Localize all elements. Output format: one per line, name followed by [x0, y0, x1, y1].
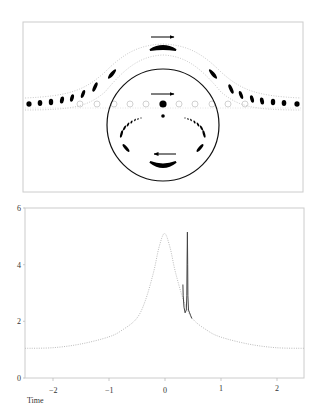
particle [187, 118, 189, 120]
figure-canvas: 0 2 4 6 −2 −1 0 1 2 Time [0, 0, 326, 420]
streamline-band [25, 44, 301, 110]
center-particle-large [159, 100, 166, 107]
y-tick-label: 4 [17, 261, 21, 270]
particle [227, 84, 234, 94]
particle [38, 100, 43, 106]
ghost-particle [192, 101, 198, 107]
x-axis-title: Time [27, 396, 44, 405]
particle [196, 122, 200, 127]
particle [249, 95, 254, 103]
particle [122, 125, 127, 131]
particle [202, 130, 206, 138]
particle [49, 99, 53, 105]
particle [238, 90, 244, 99]
y-tick-label: 0 [17, 374, 21, 383]
ghost-particle [176, 101, 182, 107]
y-tick-label: 6 [17, 204, 21, 213]
particle [119, 130, 123, 138]
particle [107, 68, 117, 80]
inner-left-particle-arc [119, 117, 141, 153]
particle [69, 94, 74, 102]
dotted-curve-series [25, 234, 304, 349]
time-series-chart: 0 2 4 6 −2 −1 0 1 2 Time [17, 204, 304, 405]
particle [185, 117, 186, 119]
particle [141, 117, 142, 119]
top-crescent-particle [150, 46, 176, 50]
particle [134, 119, 136, 122]
particle [193, 120, 196, 124]
particle [294, 101, 299, 107]
x-tick-label: −1 [105, 386, 114, 395]
solid-spike-series [183, 232, 192, 318]
x-tick-label: −2 [49, 386, 58, 395]
particle [190, 119, 192, 122]
particle [122, 143, 131, 153]
x-tick-label: 0 [163, 386, 167, 395]
particle [126, 122, 130, 127]
ghost-particle [94, 101, 100, 107]
ghost-particle [242, 101, 248, 107]
particle [130, 120, 133, 124]
particle [199, 125, 204, 131]
ghost-particle [225, 101, 231, 107]
particle [26, 101, 31, 107]
left-particle-row [26, 68, 117, 107]
band-upper-line [25, 44, 301, 98]
particle [196, 143, 205, 153]
particle [80, 89, 86, 98]
particle [271, 99, 275, 105]
inner-right-particle-arc [185, 117, 207, 153]
particle [282, 100, 287, 106]
ghost-particle [77, 101, 83, 107]
ghost-particle [143, 101, 149, 107]
ghost-particle [127, 101, 133, 107]
center-particle-small [161, 114, 165, 118]
x-tick-label: 1 [219, 384, 223, 393]
x-tick-label: 2 [275, 384, 279, 393]
particle [91, 82, 98, 92]
particle [59, 96, 64, 104]
flow-diagram [23, 22, 303, 192]
right-particle-row [208, 68, 300, 107]
particle [208, 68, 218, 80]
y-tick-label: 2 [17, 317, 21, 326]
bottom-crescent-particle [150, 162, 176, 167]
particle [137, 118, 139, 120]
particle [259, 97, 264, 105]
plot-frame [25, 208, 304, 378]
